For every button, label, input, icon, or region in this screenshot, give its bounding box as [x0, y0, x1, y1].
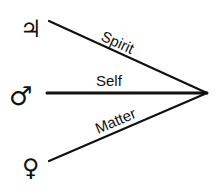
self-label: Self — [96, 72, 123, 89]
venus-icon: ♀ — [22, 154, 40, 182]
spirit-line — [49, 21, 207, 93]
mars-icon: ♂ — [9, 81, 32, 111]
diagram-canvas: Spirit Self Matter ♃ ♂ ♀ — [0, 0, 222, 189]
jupiter-icon: ♃ — [20, 15, 42, 43]
matter-line — [49, 93, 207, 161]
diagram-svg: Spirit Self Matter ♃ ♂ ♀ — [0, 0, 222, 189]
